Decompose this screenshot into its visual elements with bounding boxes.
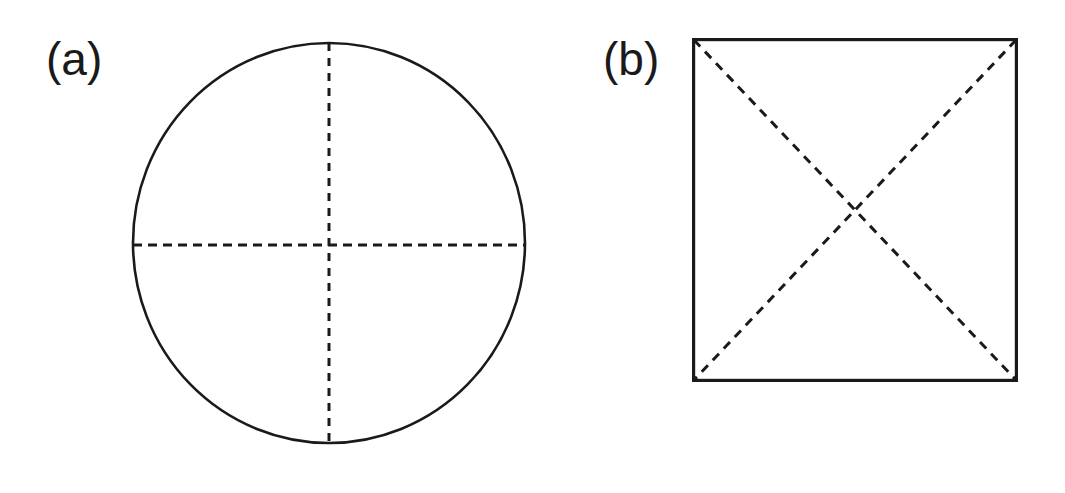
panel-label-a: (a) [46,36,102,82]
figure-graphics [0,0,1065,493]
panel-b-group [694,40,1017,381]
figure-canvas: (a) (b) [0,0,1065,493]
panel-a-group [133,43,525,443]
panel-label-b: (b) [603,36,659,82]
